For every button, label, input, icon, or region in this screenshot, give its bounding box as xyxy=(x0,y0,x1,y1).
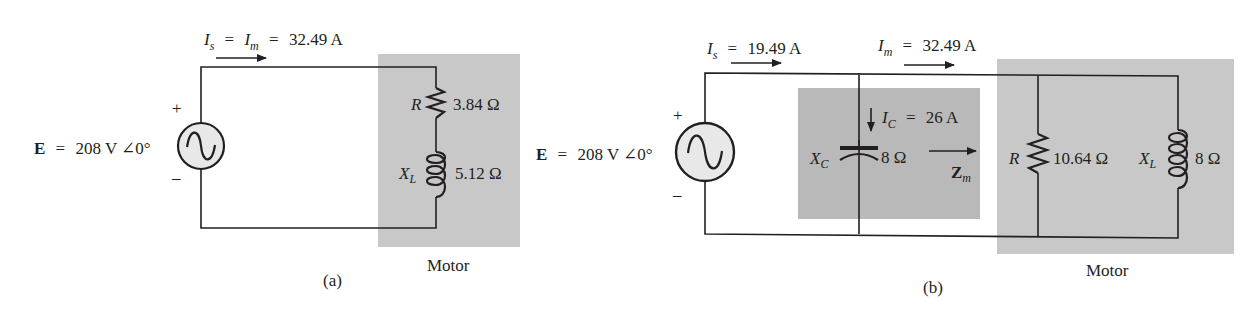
capacitor-value: 8 Ω xyxy=(881,148,906,167)
source-plus-sign: + xyxy=(673,106,683,125)
source-minus-sign: – xyxy=(672,185,682,204)
motor-block-shade xyxy=(378,54,520,247)
source-minus-sign: – xyxy=(171,168,181,187)
motor-label: Motor xyxy=(1086,261,1129,280)
source-voltage-label: E = 208 V ∠0° xyxy=(34,139,151,158)
caption-b: (b) xyxy=(923,278,943,297)
resistor-symbol: R xyxy=(1008,149,1020,168)
inductor-value: 8 Ω xyxy=(1195,149,1220,168)
motor-label: Motor xyxy=(427,256,470,275)
source-current-label: Is = 19.49 A xyxy=(706,39,802,63)
circuit-diagrams: + – E = 208 V ∠0° Is = Im = 32.49 A R 3.… xyxy=(0,0,1259,310)
source-plus-sign: + xyxy=(172,99,182,118)
resistor-symbol: R xyxy=(410,95,422,114)
inductor-value: 5.12 Ω xyxy=(455,164,502,183)
diagram-a: + – E = 208 V ∠0° Is = Im = 32.49 A R 3.… xyxy=(34,30,520,290)
caption-a: (a) xyxy=(323,271,342,290)
diagram-b: + – E = 208 V ∠0° Is = 19.49 A Im = 32.4… xyxy=(536,36,1234,297)
motor-current-label: Im = 32.49 A xyxy=(877,36,977,60)
resistor-value: 3.84 Ω xyxy=(453,95,500,114)
ac-source-icon xyxy=(676,123,734,181)
current-label: Is = Im = 32.49 A xyxy=(203,30,343,54)
resistor-value: 10.64 Ω xyxy=(1053,149,1108,168)
ac-source-icon xyxy=(178,123,224,169)
source-voltage-label: E = 208 V ∠0° xyxy=(536,145,653,164)
